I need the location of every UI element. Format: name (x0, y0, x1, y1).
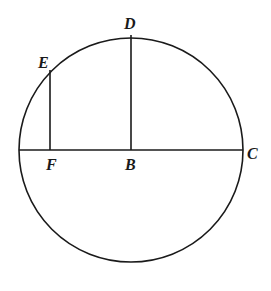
label-e: E (37, 54, 49, 71)
geometry-diagram: D E F B C (0, 0, 271, 291)
label-f: F (45, 156, 57, 173)
label-c: C (247, 145, 258, 162)
label-d: D (123, 15, 136, 32)
label-b: B (124, 156, 136, 173)
